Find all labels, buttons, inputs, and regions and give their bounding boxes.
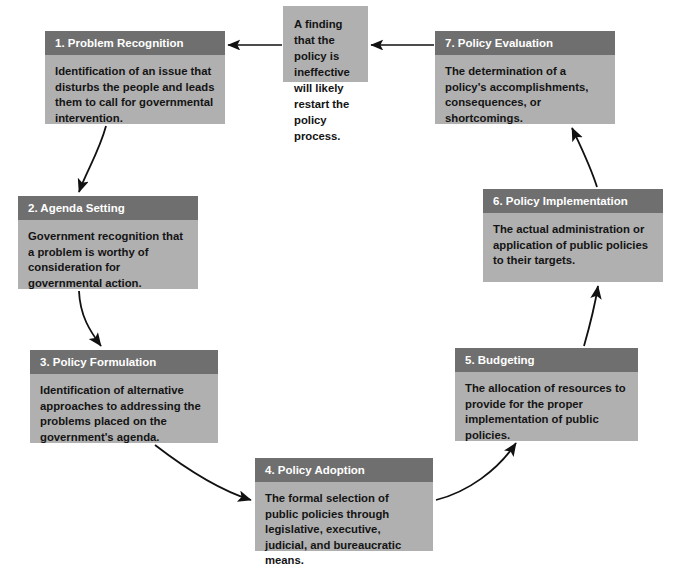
node-title: 1. Problem Recognition bbox=[45, 31, 225, 55]
note-restart-policy-process[interactable]: A finding that the policy is ineffective… bbox=[283, 6, 368, 82]
node-title: 5. Budgeting bbox=[455, 348, 638, 372]
connector-formulation-to-adoption bbox=[155, 445, 251, 500]
node-body: The determination of a policy's accompli… bbox=[435, 55, 615, 134]
node-body: Identification of alternative approaches… bbox=[30, 374, 218, 453]
connector-budgeting-to-implementation bbox=[584, 286, 598, 346]
node-body: The formal selection of public policies … bbox=[255, 482, 433, 568]
connector-agenda-to-formulation bbox=[79, 291, 101, 346]
node-title: 3. Policy Formulation bbox=[30, 350, 218, 374]
connector-problem-to-agenda bbox=[79, 126, 106, 192]
node-title: 4. Policy Adoption bbox=[255, 458, 433, 482]
node-body: The actual administration or application… bbox=[483, 213, 663, 277]
node-budgeting[interactable]: 5. Budgeting The allocation of resources… bbox=[455, 348, 638, 441]
node-policy-implementation[interactable]: 6. Policy Implementation The actual admi… bbox=[483, 189, 663, 282]
node-body: The allocation of resources to provide f… bbox=[455, 372, 638, 451]
node-agenda-setting[interactable]: 2. Agenda Setting Government recognition… bbox=[18, 196, 198, 289]
connector-implementation-to-evaluation bbox=[572, 128, 597, 187]
node-title: 6. Policy Implementation bbox=[483, 189, 663, 213]
node-title: 2. Agenda Setting bbox=[18, 196, 198, 220]
node-title: 7. Policy Evaluation bbox=[435, 31, 615, 55]
node-body: Identification of an issue that disturbs… bbox=[45, 55, 225, 134]
node-policy-evaluation[interactable]: 7. Policy Evaluation The determination o… bbox=[435, 31, 615, 124]
node-problem-recognition[interactable]: 1. Problem Recognition Identification of… bbox=[45, 31, 225, 124]
connector-adoption-to-budgeting bbox=[436, 443, 516, 500]
node-body: Government recognition that a problem is… bbox=[18, 220, 198, 299]
node-policy-formulation[interactable]: 3. Policy Formulation Identification of … bbox=[30, 350, 218, 443]
node-policy-adoption[interactable]: 4. Policy Adoption The formal selection … bbox=[255, 458, 433, 551]
note-body: A finding that the policy is ineffective… bbox=[283, 6, 368, 154]
